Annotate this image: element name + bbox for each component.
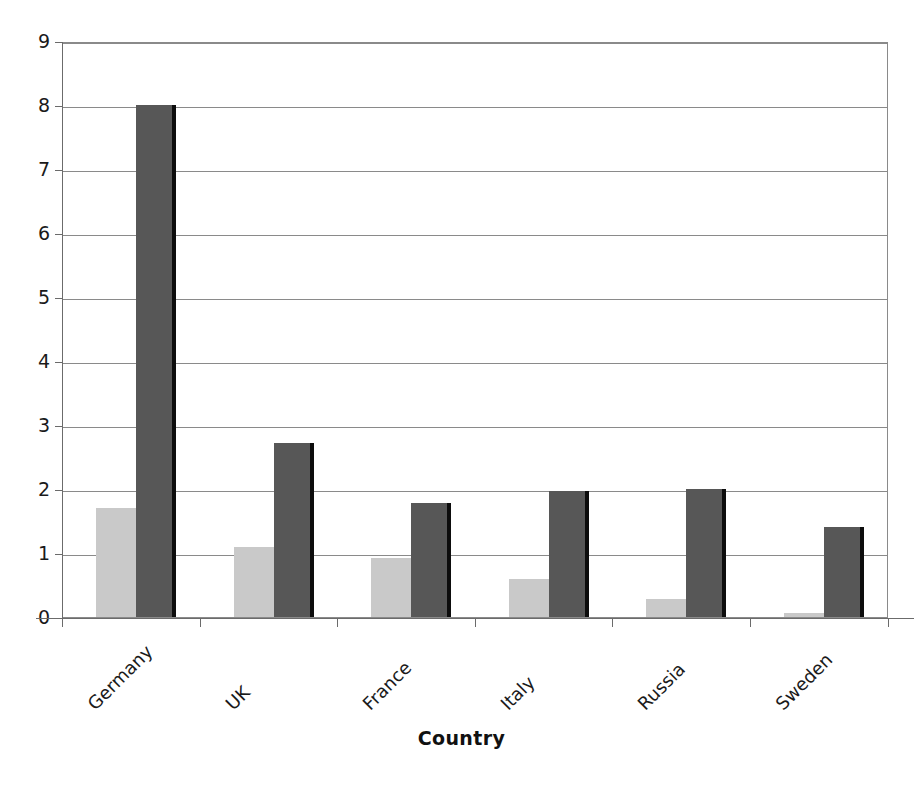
x-axis-tick: [888, 619, 889, 627]
gridline: [63, 427, 887, 428]
gridline: [63, 555, 887, 556]
x-axis-category-label: Germany: [84, 641, 157, 714]
bar: [274, 443, 314, 617]
bar: [824, 527, 864, 617]
y-axis-tick: [55, 426, 62, 427]
bar: [371, 558, 411, 617]
gridline: [63, 43, 887, 44]
x-axis-category-label: Italy: [497, 672, 539, 714]
y-axis-tick: [55, 362, 62, 363]
y-axis-tick-label: 5: [6, 288, 50, 307]
y-axis-tick: [55, 298, 62, 299]
x-axis-category-label: UK: [222, 682, 254, 714]
x-axis-tick: [475, 619, 476, 627]
x-axis-category-label: France: [359, 658, 415, 714]
y-axis-tick-label: 1: [6, 544, 50, 563]
gridline: [63, 491, 887, 492]
y-axis-tick: [55, 42, 62, 43]
y-axis-tick-label: 9: [6, 32, 50, 51]
bar: [686, 489, 726, 617]
bar: [549, 491, 589, 617]
gridline: [63, 171, 887, 172]
y-axis-tick: [55, 554, 62, 555]
x-axis-category-label: Sweden: [772, 650, 836, 714]
x-axis-category-label: Russia: [634, 659, 689, 714]
plot-area: [62, 42, 888, 618]
bar-chart: 0123456789 GermanyUKFranceItalyRussiaSwe…: [0, 0, 923, 801]
x-axis-tick: [62, 619, 63, 627]
bar: [234, 547, 274, 617]
x-axis-tick: [200, 619, 201, 627]
y-axis-line: [62, 42, 63, 619]
y-axis-tick: [55, 234, 62, 235]
y-axis-tick-label: 8: [6, 96, 50, 115]
y-axis-tick-label: 4: [6, 352, 50, 371]
y-axis-tick-label: 6: [6, 224, 50, 243]
y-axis-tick: [55, 490, 62, 491]
x-axis-tick: [337, 619, 338, 627]
y-axis-tick: [55, 106, 62, 107]
y-axis-tick: [55, 170, 62, 171]
bar: [411, 503, 451, 617]
x-axis-tick: [612, 619, 613, 627]
bar: [96, 508, 136, 617]
bar: [136, 105, 176, 617]
gridline: [63, 299, 887, 300]
bar: [509, 579, 549, 617]
y-axis-tick-label: 2: [6, 480, 50, 499]
y-axis-tick-label: 3: [6, 416, 50, 435]
bar: [784, 613, 824, 617]
gridline: [63, 235, 887, 236]
x-axis-tick: [750, 619, 751, 627]
x-axis-title: Country: [0, 727, 923, 749]
gridline: [63, 363, 887, 364]
gridline: [63, 107, 887, 108]
y-axis-tick-label: 7: [6, 160, 50, 179]
bar: [646, 599, 686, 617]
y-axis-tick-labels: 0123456789: [0, 0, 50, 801]
